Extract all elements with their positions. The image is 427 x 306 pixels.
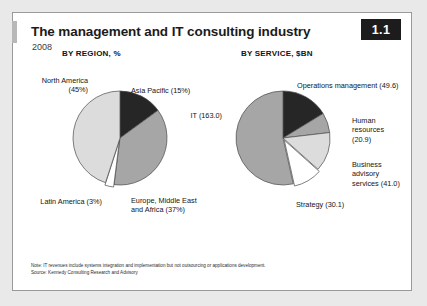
footnote-source: Source: Kennedy Consulting Research and … xyxy=(31,270,401,277)
label-it: IT (163.0) xyxy=(178,111,222,120)
footnote: Note: IT revenues include systems integr… xyxy=(31,263,401,276)
label-operations: Operations management (49.6) xyxy=(297,81,409,90)
figure-number-badge: 1.1 xyxy=(361,19,401,40)
label-latin-america: Latin America (3%) xyxy=(22,197,102,206)
pie-region-svg xyxy=(60,78,180,198)
card-edge-tab xyxy=(12,21,17,43)
pie-service-svg xyxy=(223,78,343,198)
label-human-resources: Humanresources(20.9) xyxy=(352,116,408,144)
footnote-note: Note: IT revenues include systems integr… xyxy=(31,263,401,270)
label-north-america: North America(45%) xyxy=(10,76,88,95)
label-emea: Europe, Middle Eastand Africa (37%) xyxy=(131,196,209,215)
label-asia-pacific: Asia Pacific (15%) xyxy=(131,86,221,95)
chart-title-region: BY REGION, % xyxy=(62,49,121,58)
page-title: The management and IT consulting industr… xyxy=(31,24,310,39)
figure-page: The management and IT consulting industr… xyxy=(0,0,427,306)
chart-title-service: BY SERVICE, $BN xyxy=(241,49,313,58)
label-business-advisory: Businessadvisoryservices (41.0) xyxy=(352,160,408,188)
page-subtitle: 2008 xyxy=(32,42,52,52)
pie-chart-by-service xyxy=(223,78,343,198)
pie-chart-by-region xyxy=(60,78,180,198)
label-strategy: Strategy (30.1) xyxy=(296,200,366,209)
